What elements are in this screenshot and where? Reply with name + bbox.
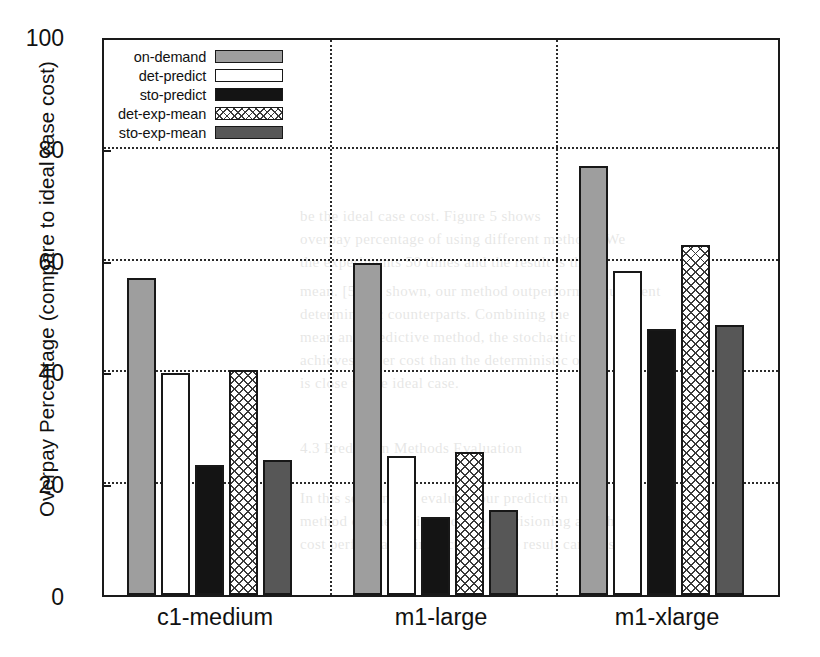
x-tick-label-m1-large: m1-large xyxy=(395,604,488,631)
legend-label-det-predict: det-predict xyxy=(139,68,206,84)
bar-m1-large-sto-predict xyxy=(421,517,450,595)
bar-m1-xlarge-det-predict xyxy=(613,271,642,595)
bar-c1-medium-det-exp-mean xyxy=(229,370,258,595)
legend-swatch-det-predict xyxy=(215,69,283,82)
x-tick-label-c1-medium: c1-medium xyxy=(157,604,273,631)
bar-m1-xlarge-det-exp-mean xyxy=(681,245,710,595)
legend-label-sto-exp-mean: sto-exp-mean xyxy=(119,125,206,141)
legend-swatch-det-exp-mean xyxy=(215,107,283,120)
bar-m1-large-det-exp-mean xyxy=(455,452,484,595)
bar-m1-xlarge-sto-predict xyxy=(647,329,676,595)
bar-c1-medium-sto-exp-mean xyxy=(263,460,292,595)
legend-item-on-demand: on-demand xyxy=(118,48,283,65)
x-tick-label-m1-xlarge: m1-xlarge xyxy=(615,604,719,631)
bar-m1-xlarge-sto-exp-mean xyxy=(715,325,744,595)
legend-item-det-predict: det-predict xyxy=(118,67,283,84)
gridline-y-60 xyxy=(104,259,778,261)
bar-c1-medium-on-demand xyxy=(127,278,156,595)
bar-m1-large-on-demand xyxy=(353,263,382,595)
bar-m1-xlarge-on-demand xyxy=(579,166,608,595)
y-tick-label-100: 100 xyxy=(26,25,64,52)
legend-item-det-exp-mean: det-exp-mean xyxy=(118,105,283,122)
chart-legend: on-demanddet-predictsto-predictdet-exp-m… xyxy=(118,48,283,141)
bar-m1-large-sto-exp-mean xyxy=(489,510,518,595)
gridline-y-80 xyxy=(104,147,778,149)
legend-item-sto-predict: sto-predict xyxy=(118,86,283,103)
legend-swatch-sto-predict xyxy=(215,88,283,101)
bar-c1-medium-sto-predict xyxy=(195,465,224,595)
group-separator-2 xyxy=(556,40,558,595)
bar-chart: Overpay Percentage (compare to ideal cas… xyxy=(0,0,820,657)
y-tick-label-60: 60 xyxy=(38,248,64,275)
group-separator-1 xyxy=(330,40,332,595)
legend-swatch-sto-exp-mean xyxy=(215,126,283,139)
gridline-y-40 xyxy=(104,370,778,372)
legend-swatch-on-demand xyxy=(215,50,283,63)
legend-label-sto-predict: sto-predict xyxy=(140,87,207,103)
y-tick-label-80: 80 xyxy=(38,136,64,163)
legend-item-sto-exp-mean: sto-exp-mean xyxy=(118,124,283,141)
legend-label-on-demand: on-demand xyxy=(134,49,206,65)
y-tick-label-20: 20 xyxy=(38,472,64,499)
bar-m1-large-det-predict xyxy=(387,456,416,595)
legend-label-det-exp-mean: det-exp-mean xyxy=(118,106,206,122)
bar-c1-medium-det-predict xyxy=(161,373,190,595)
y-tick-label-0: 0 xyxy=(51,584,64,611)
y-tick-label-40: 40 xyxy=(38,360,64,387)
